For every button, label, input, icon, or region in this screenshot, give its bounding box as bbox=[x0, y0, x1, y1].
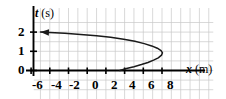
x-tick-label-8: 8 bbox=[167, 78, 174, 91]
x-tick-label-minus6: -6 bbox=[32, 78, 43, 91]
x-tick-label-minus2: -2 bbox=[69, 78, 80, 91]
position-time-graph-figure: 2 1 0 -6 -4 -2 0 2 4 6 8 t (s) x (m) bbox=[0, 0, 226, 99]
arrowhead-icon bbox=[40, 29, 49, 35]
y-tick-label-1: 1 bbox=[18, 44, 25, 57]
y-tick-label-2: 2 bbox=[18, 25, 25, 38]
x-axis-title: x (m) bbox=[186, 63, 212, 75]
y-axis-title: t (s) bbox=[35, 7, 54, 19]
x-tick-label-2: 2 bbox=[111, 78, 118, 91]
x-tick-label-4: 4 bbox=[129, 78, 136, 91]
x-tick-label-6: 6 bbox=[148, 78, 155, 91]
y-tick-label-0: 0 bbox=[18, 63, 25, 76]
x-tick-label-minus4: -4 bbox=[51, 78, 62, 91]
x-tick-label-0: 0 bbox=[92, 78, 99, 91]
x-axis-unit: (m) bbox=[195, 62, 212, 76]
y-axis-unit: (s) bbox=[41, 6, 54, 20]
trajectory-curve bbox=[40, 29, 162, 70]
